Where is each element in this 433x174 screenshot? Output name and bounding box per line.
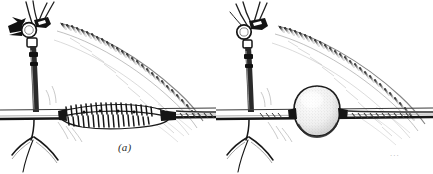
panel-b-drawing [216, 0, 433, 174]
panel-a: (a) [0, 0, 217, 174]
panel-a-drawing [0, 0, 217, 174]
clip-ring-a [22, 23, 37, 38]
scan-artifact-marks: ... [390, 148, 400, 158]
figure-root: (a) [0, 0, 433, 174]
clip-ring-b [237, 25, 251, 39]
panel-a-caption: (a) [118, 141, 131, 153]
panel-b: (b) [216, 0, 433, 174]
